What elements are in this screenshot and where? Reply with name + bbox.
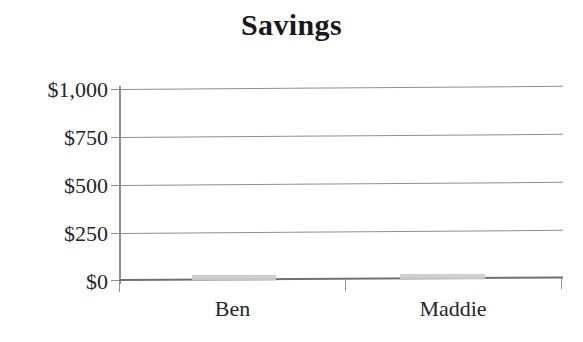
y-tick-label-750: $750: [4, 125, 108, 151]
x-axis-tick-left: [119, 281, 120, 292]
plot-area: [119, 84, 563, 280]
x-axis-tick-right: [561, 278, 562, 289]
y-tick-label-500: $500: [4, 173, 108, 199]
x-tick-label-ben: Ben: [175, 296, 290, 322]
y-tick-label-250: $250: [4, 221, 108, 247]
x-axis-tick-middle: [345, 280, 346, 291]
gridline-750: [119, 134, 563, 138]
gridline-250: [119, 230, 563, 234]
gridline-500: [119, 182, 563, 186]
y-tick-label-1000: $1,000: [4, 77, 108, 103]
y-tick-label-0: $0: [4, 269, 108, 295]
savings-bar-chart: Savings $1,000 $750 $500 $250 $0 Ben Mad…: [0, 0, 583, 342]
bar-maddie: [400, 274, 485, 279]
bar-ben: [192, 275, 276, 280]
x-tick-label-maddie: Maddie: [388, 296, 518, 322]
gridline-1000: [119, 86, 563, 90]
y-axis-labels: $1,000 $750 $500 $250 $0: [0, 0, 108, 342]
